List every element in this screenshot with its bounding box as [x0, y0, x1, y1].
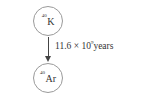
half-life-coefficient: 11.6 [55, 41, 71, 51]
daughter-nuclide-node: 40Ar [33, 63, 63, 93]
times-sign: × [74, 41, 79, 51]
half-life-unit: years [93, 41, 113, 51]
parent-nuclide-label: 40K [42, 16, 55, 27]
daughter-mass-number: 40 [40, 70, 45, 75]
parent-nuclide-node: 40K [33, 6, 63, 36]
parent-symbol: K [47, 16, 54, 27]
half-life-label: 11.6 × 109years [55, 41, 113, 51]
decay-arrow-head-icon [45, 56, 51, 62]
daughter-symbol: Ar [45, 73, 56, 84]
decay-arrow-shaft [48, 37, 49, 57]
daughter-nuclide-label: 40Ar [40, 73, 56, 84]
half-life-base: 10 [81, 41, 91, 51]
parent-mass-number: 40 [42, 13, 47, 18]
